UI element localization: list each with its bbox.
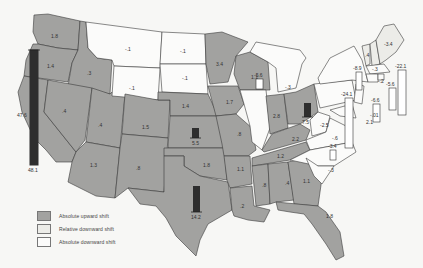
- bar-CT: [389, 88, 396, 110]
- bar-NC: [330, 150, 336, 160]
- label-LA: .2: [240, 203, 244, 209]
- state-UT: [86, 88, 125, 148]
- label-NE: 1.4: [182, 103, 189, 109]
- map-legend: Absolute upward shift Relative downward …: [37, 209, 116, 248]
- label-NM: .8: [136, 165, 140, 171]
- label-TN: 1.2: [277, 153, 284, 159]
- state-MA: [366, 64, 390, 74]
- label-PA: -24.1: [341, 91, 353, 97]
- label-ME: -3.4: [384, 41, 393, 47]
- label-MD: 2.1: [366, 119, 373, 125]
- state-CT: [366, 74, 378, 82]
- bar-IL: [256, 79, 263, 89]
- label-AZ: 1.3: [90, 162, 97, 168]
- state-FL: [276, 202, 344, 260]
- map-figure: 1.8 1.4 47.6 48.1 .3 .4 .4 1.3 -.1 -.1 1…: [0, 0, 423, 268]
- label-MS: .8: [262, 182, 266, 188]
- label-VT: .4: [365, 52, 369, 58]
- label-TX: 14.2: [191, 214, 201, 220]
- state-NM: [115, 134, 168, 198]
- label-UT: .4: [98, 122, 102, 128]
- legend-swatch-upward: [37, 211, 51, 221]
- label-WV: -2.5: [320, 122, 329, 128]
- bar-CA: [30, 50, 38, 165]
- state-CO: [122, 94, 170, 138]
- label-DE: -.01: [370, 112, 379, 118]
- label-NJ: -6.6: [371, 97, 380, 103]
- legend-label: Absolute upward shift: [59, 213, 109, 219]
- label-MN: 3.4: [216, 61, 223, 67]
- label-OH: 7.5: [302, 119, 309, 125]
- label-VA: -.6: [332, 135, 338, 141]
- state-AR: [224, 156, 252, 188]
- bar-PA: [345, 98, 353, 148]
- label-MO: .8: [237, 131, 241, 137]
- legend-label: Absolute downward shift: [59, 239, 116, 245]
- legend-swatch-relative-downward: [37, 224, 51, 234]
- label-CA-side: 47.6: [17, 112, 27, 118]
- label-KS: 5.5: [192, 140, 199, 146]
- label-NH: -.3: [372, 66, 378, 72]
- bar-OH: [304, 103, 311, 117]
- label-ID: .3: [87, 70, 91, 76]
- label-AL: .4: [285, 180, 289, 186]
- label-MT: -.1: [125, 46, 131, 52]
- bar-KS: [192, 128, 199, 138]
- legend-item-absolute-downward: Absolute downward shift: [37, 235, 116, 248]
- label-MA: -22.1: [395, 63, 407, 69]
- state-MS: [252, 164, 270, 206]
- label-IN: 2.8: [273, 113, 280, 119]
- label-OR: 1.4: [47, 63, 54, 69]
- state-WY: [112, 66, 160, 100]
- legend-item-relative-downward: Relative downward shift: [37, 222, 116, 235]
- label-CA-bar: 48.1: [28, 167, 38, 173]
- label-AR: 1.1: [237, 166, 244, 172]
- label-FL: 1.8: [326, 213, 333, 219]
- label-NC: -3.4: [328, 143, 337, 149]
- label-OK: 1.8: [203, 162, 210, 168]
- legend-item-absolute-upward: Absolute upward shift: [37, 209, 116, 222]
- label-MI: -.3: [285, 84, 291, 90]
- bar-TX: [193, 186, 200, 212]
- label-RI: -.2: [378, 78, 384, 84]
- label-WY: -.1: [129, 85, 135, 91]
- legend-swatch-absolute-downward: [37, 237, 51, 247]
- legend-label: Relative downward shift: [59, 226, 114, 232]
- label-KY: 2.2: [292, 136, 299, 142]
- label-NY: -8.9: [353, 65, 362, 71]
- bar-NY: [356, 72, 362, 90]
- label-CT: -5.6: [386, 81, 395, 87]
- label-NV: .4: [62, 108, 66, 114]
- label-GA: 1.1: [303, 178, 310, 184]
- label-CO: 1.5: [142, 124, 149, 130]
- label-ND: -.1: [180, 48, 186, 54]
- label-IL-display: -5.6: [254, 72, 263, 78]
- bar-MA: [398, 70, 406, 115]
- label-SD: -.1: [182, 75, 188, 81]
- label-WA: 1.8: [51, 33, 58, 39]
- label-SC: -.3: [328, 167, 334, 173]
- label-IA: 1.7: [226, 99, 233, 105]
